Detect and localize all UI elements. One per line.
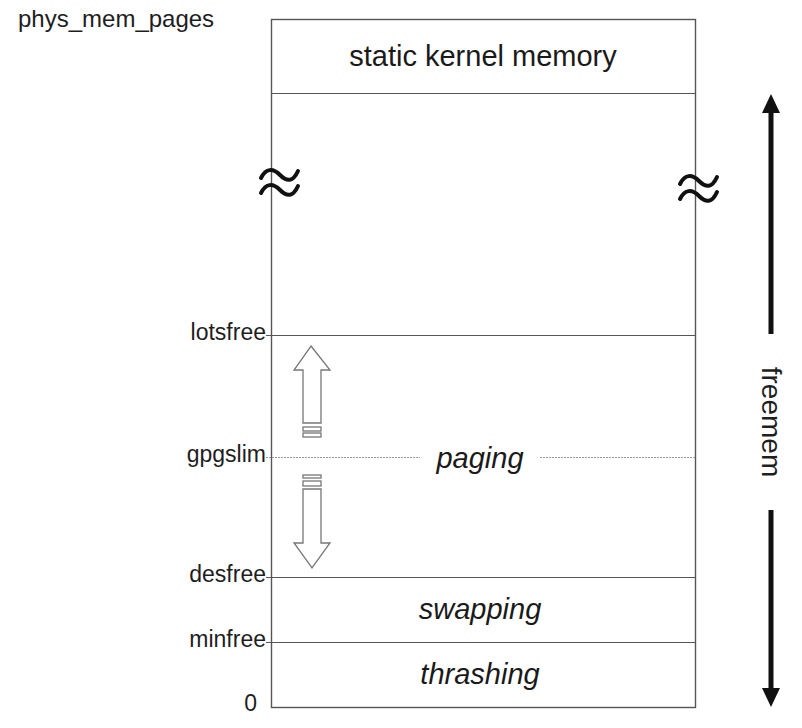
phys-mem-pages-label: phys_mem_pages <box>18 7 214 31</box>
break-symbol-left-icon <box>261 170 298 195</box>
region-thrashing: thrashing <box>350 660 610 689</box>
region-static-kernel-memory: static kernel memory <box>271 42 695 71</box>
paging-down-arrow-icon <box>294 475 330 568</box>
threshold-label-desfree: desfree <box>189 563 266 586</box>
threshold-label-gpgslim: gpgslim <box>187 443 266 466</box>
paging-up-arrow-icon <box>294 346 330 437</box>
zero-label: 0 <box>244 692 257 715</box>
freemem-text: freemem <box>756 352 786 492</box>
break-symbol-right-icon <box>680 176 717 201</box>
threshold-label-lotsfree: lotsfree <box>191 321 266 344</box>
region-paging: paging <box>350 444 610 473</box>
threshold-label-minfree: minfree <box>189 628 266 651</box>
region-swapping: swapping <box>350 595 610 624</box>
